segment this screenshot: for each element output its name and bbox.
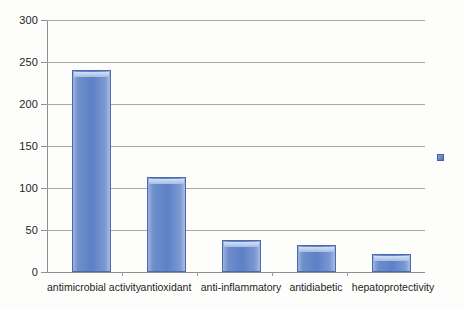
x-axis-tick-2: [197, 272, 198, 276]
gridline-300: [47, 20, 425, 21]
bar-chart: 300 250 200 150 100 50 0: [0, 0, 463, 309]
x-axis-tick-1: [122, 272, 123, 276]
bar-top-highlight: [224, 242, 259, 247]
y-tick-label-300: 300: [4, 15, 38, 26]
x-axis-tick-3: [272, 272, 273, 276]
bar-antimicrobial-activity[interactable]: [72, 70, 111, 272]
y-tick-label-150: 150: [4, 141, 38, 152]
x-axis-category-labels: antimicrobial activity antioxidant anti-…: [47, 281, 425, 299]
bar-top-highlight: [299, 247, 334, 252]
bar-antidiabetic[interactable]: [297, 245, 336, 272]
y-tick-label-50: 50: [4, 225, 38, 236]
bar-top-highlight: [374, 256, 409, 261]
bar-antioxidant[interactable]: [147, 177, 186, 272]
y-tick-label-100: 100: [4, 183, 38, 194]
bar-top-highlight: [149, 179, 184, 184]
category-label-hepatoprotectivity: hepatoprotectivity: [333, 281, 453, 293]
y-tick-label-0: 0: [4, 267, 38, 278]
bar-anti-inflammatory[interactable]: [222, 240, 261, 272]
plot-area: [47, 20, 425, 272]
gridline-baseline-0: [47, 272, 425, 273]
y-tick-label-250: 250: [4, 57, 38, 68]
bar-top-highlight: [74, 72, 109, 77]
x-axis-tick-4: [347, 272, 348, 276]
legend-color-swatch: [437, 154, 444, 161]
y-axis-tick-labels: 300 250 200 150 100 50 0: [0, 0, 38, 309]
bar-hepatoprotectivity[interactable]: [372, 254, 411, 272]
gridline-250: [47, 62, 425, 63]
y-tick-label-200: 200: [4, 99, 38, 110]
